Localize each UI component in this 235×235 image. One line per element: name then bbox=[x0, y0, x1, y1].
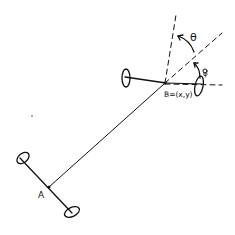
body-link bbox=[49, 84, 164, 187]
dashed-horizontal-reference bbox=[165, 84, 222, 85]
dashed-vertical-reference bbox=[165, 15, 176, 83]
front-wheel-right bbox=[193, 75, 205, 96]
kinematic-car-diagram: A B=(x,y) θ φ bbox=[0, 0, 235, 235]
phi-label: φ bbox=[203, 70, 208, 78]
point-a-label: A bbox=[38, 190, 45, 200]
theta-label: θ bbox=[190, 31, 197, 44]
point-b-label: B=(x,y) bbox=[164, 90, 193, 99]
rear-wheel-left bbox=[15, 150, 32, 166]
stray-dot bbox=[31, 115, 33, 117]
front-axle bbox=[125, 77, 166, 83]
rear-axle bbox=[20, 158, 72, 213]
